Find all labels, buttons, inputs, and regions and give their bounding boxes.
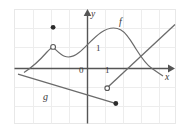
g-filled-endpoint bbox=[113, 101, 118, 106]
y-axis-label: y bbox=[90, 9, 96, 19]
graph-figure: y x 0 1 1 f g bbox=[0, 0, 183, 131]
x-unit-label: 1 bbox=[105, 65, 110, 75]
f-open-circle bbox=[51, 45, 56, 50]
origin-label: 0 bbox=[79, 65, 84, 75]
coordinate-plot: y x 0 1 1 f g bbox=[0, 0, 183, 131]
f-filled-point bbox=[51, 25, 56, 30]
y-unit-label: 1 bbox=[96, 43, 101, 53]
x-axis-label: x bbox=[164, 72, 170, 82]
curve-g-label: g bbox=[43, 91, 48, 102]
rising-line-open-circle bbox=[105, 86, 110, 91]
